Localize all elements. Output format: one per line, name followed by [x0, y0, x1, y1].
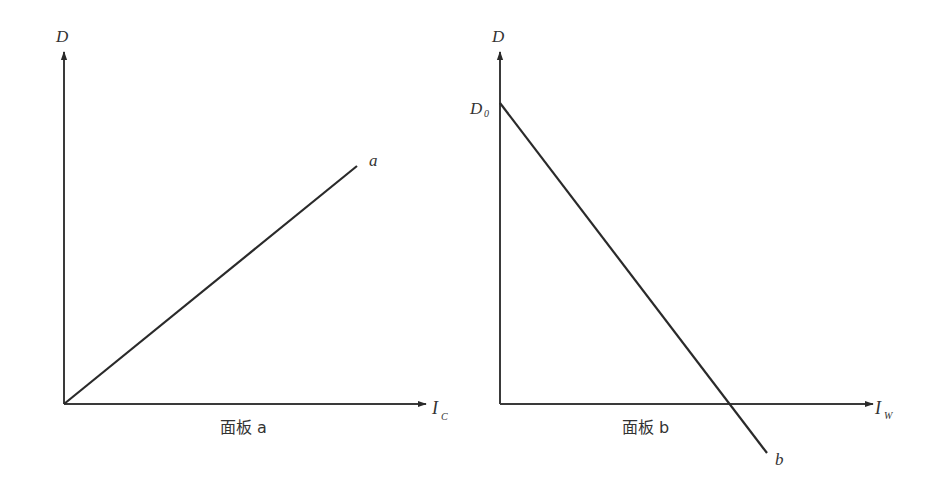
line-label-a: a — [369, 151, 378, 170]
x-axis-label-b: I — [874, 398, 882, 418]
panel-caption-a: 面板 a — [220, 418, 267, 437]
x-axis-label-sub-a: C — [441, 411, 448, 422]
y-axis-label-a: D — [55, 27, 69, 46]
y-intercept-label-sub: 0 — [484, 108, 489, 119]
panel-a: D a I C 面板 a — [55, 27, 448, 437]
panel-b: D D 0 b I W 面板 b — [469, 27, 894, 469]
figure: D a I C 面板 a D D 0 b I W 面板 b — [0, 0, 932, 486]
line-label-b: b — [775, 450, 784, 469]
line-b — [500, 103, 767, 453]
line-a — [64, 166, 357, 404]
y-intercept-label: D — [469, 99, 483, 118]
y-axis-label-b: D — [491, 27, 505, 46]
x-axis-label-sub-b: W — [884, 410, 894, 421]
panel-caption-b: 面板 b — [622, 418, 669, 437]
x-axis-label-a: I — [431, 398, 439, 418]
